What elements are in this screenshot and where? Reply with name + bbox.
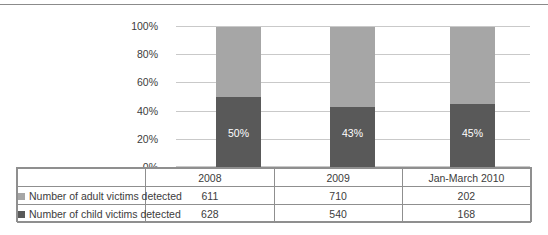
table-row: Number of adult victims detected 611 710… (18, 187, 531, 205)
data-table-wrapper: 2008 2009 Jan-March 2010 Number of adult… (16, 167, 532, 222)
bar-jan-march-2010-adult-segment (450, 27, 495, 104)
bar-jan-march-2010[interactable]: 45% (450, 27, 495, 167)
page-top-rule (0, 4, 548, 5)
bar-2009-adult-segment (330, 27, 375, 107)
legend-item-child[interactable]: Number of child victims detected (18, 205, 146, 223)
y-tick-20: 20% (137, 134, 158, 145)
bar-2008-percent-label: 50% (216, 127, 261, 139)
y-tick-40: 40% (137, 105, 158, 116)
child-swatch-icon (18, 211, 25, 218)
y-tick-80: 80% (137, 49, 158, 60)
legend-label-adult: Number of adult victims detected (29, 190, 182, 202)
y-tick-100: 100% (131, 21, 158, 32)
data-table: 2008 2009 Jan-March 2010 Number of adult… (17, 168, 531, 223)
bar-2009-percent-label: 43% (330, 127, 375, 139)
cell-child-jan-march-2010: 168 (402, 205, 530, 223)
bar-2008[interactable]: 50% (216, 27, 261, 167)
cell-adult-2009: 710 (274, 187, 402, 205)
bar-2008-child-segment: 50% (216, 97, 261, 167)
legend-header-spacer (18, 169, 146, 187)
bar-jan-march-2010-child-segment: 45% (450, 104, 495, 167)
cell-child-2009: 540 (274, 205, 402, 223)
column-header-2008: 2008 (146, 169, 274, 187)
y-axis-labels: 100% 80% 60% 40% 20% 0% (0, 26, 180, 167)
column-header-2009: 2009 (274, 169, 402, 187)
chart-figure: 100% 80% 60% 40% 20% 0% 50% 43% (0, 0, 548, 235)
y-tick-60: 60% (137, 77, 158, 88)
plot-area: 50% 43% 45% (186, 26, 530, 167)
table-row: Number of child victims detected 628 540… (18, 205, 531, 223)
bar-2009-child-segment: 43% (330, 107, 375, 167)
bar-2008-adult-segment (216, 27, 261, 97)
adult-swatch-icon (18, 193, 25, 200)
column-header-jan-march-2010: Jan-March 2010 (402, 169, 530, 187)
legend-item-adult[interactable]: Number of adult victims detected (18, 187, 146, 205)
table-header-row: 2008 2009 Jan-March 2010 (18, 169, 531, 187)
legend-label-child: Number of child victims detected (29, 208, 181, 220)
bar-2009[interactable]: 43% (330, 27, 375, 167)
cell-adult-jan-march-2010: 202 (402, 187, 530, 205)
bar-jan-march-2010-percent-label: 45% (450, 127, 495, 139)
